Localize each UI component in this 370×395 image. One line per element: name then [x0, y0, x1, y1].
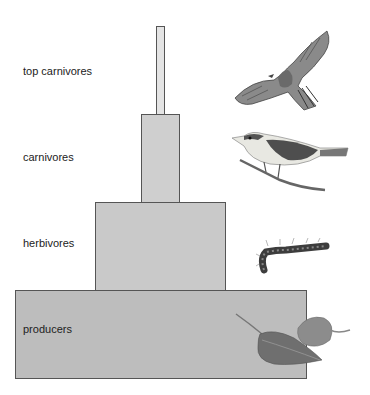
herbivores-bar	[95, 202, 226, 291]
label-herbivores: herbivores	[23, 237, 74, 249]
label-producers: producers	[23, 323, 72, 335]
songbird-icon	[230, 130, 350, 195]
label-top-carnivores: top carnivores	[23, 65, 92, 77]
caterpillar-icon	[256, 238, 331, 276]
leaves-icon	[234, 310, 354, 368]
top-carnivores-bar	[156, 26, 165, 115]
hawk-icon	[232, 28, 337, 113]
label-carnivores: carnivores	[23, 151, 74, 163]
carnivores-bar	[141, 114, 180, 203]
